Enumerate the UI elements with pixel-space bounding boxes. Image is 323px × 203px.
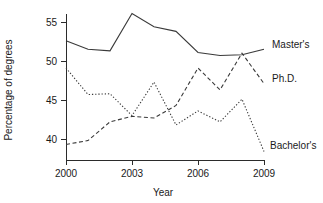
x-tick-label: 2006 [187, 168, 210, 179]
y-tick-label: 55 [46, 17, 58, 28]
x-tick-label: 2003 [121, 168, 144, 179]
x-axis-ticks: 2000200320062009 [55, 160, 276, 179]
series-labels: Master'sPh.D.Bachelor's [270, 39, 316, 151]
series-label-master-s: Master's [272, 39, 309, 50]
series-line-master-s [66, 13, 264, 55]
x-axis: 2000200320062009 [55, 160, 276, 179]
x-tick-label: 2000 [55, 168, 78, 179]
series-lines [66, 13, 264, 151]
x-tick-label: 2009 [253, 168, 276, 179]
y-axis: 40455055 [46, 14, 66, 160]
series-label-bachelor-s: Bachelor's [270, 140, 316, 151]
y-axis-title: Percentage of degrees [3, 39, 14, 140]
y-tick-label: 45 [46, 95, 58, 106]
series-line-bachelor-s [66, 68, 264, 151]
y-tick-label: 50 [46, 56, 58, 67]
line-chart: 40455055 2000200320062009 Master'sPh.D.B… [0, 0, 323, 203]
series-line-ph-d [66, 53, 264, 144]
y-tick-label: 40 [46, 134, 58, 145]
x-axis-title: Year [153, 187, 174, 198]
y-axis-ticks: 40455055 [46, 17, 66, 145]
series-label-ph-d: Ph.D. [272, 73, 297, 84]
chart-canvas: 40455055 2000200320062009 Master'sPh.D.B… [0, 0, 323, 203]
